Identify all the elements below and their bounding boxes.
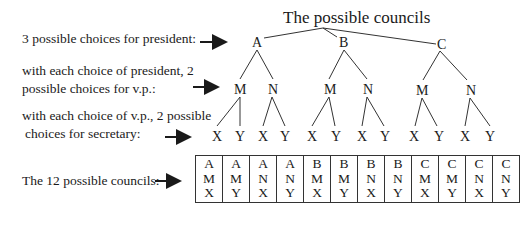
node-secretary: Y — [380, 129, 390, 144]
council-cell: CMY — [439, 156, 466, 203]
node-secretary: X — [212, 129, 222, 144]
council-cell: ANX — [250, 156, 277, 203]
node-vp: N — [268, 82, 278, 97]
node-president-a: A — [252, 35, 263, 50]
node-secretary: Y — [235, 129, 245, 144]
node-secretary: Y — [280, 129, 290, 144]
council-cell: CMX — [411, 156, 438, 203]
node-secretary: Y — [485, 129, 495, 144]
node-secretary: Y — [434, 129, 444, 144]
node-secretary: X — [409, 129, 419, 144]
node-vp: M — [416, 83, 429, 98]
council-cell: BMY — [331, 156, 358, 203]
node-vp: M — [234, 82, 247, 97]
council-cell: BMX — [303, 156, 330, 203]
councils-table: AMX AMY ANX ANY BMX BMY BNX BNY CMX CMY … — [195, 155, 520, 203]
node-secretary: X — [460, 129, 470, 144]
node-secretary: Y — [331, 129, 341, 144]
table-row: AMX AMY ANX ANY BMX BMY BNX BNY CMX CMY … — [196, 156, 520, 203]
council-cell: BNY — [385, 156, 412, 203]
council-cell: AMY — [223, 156, 250, 203]
council-cell: CNY — [492, 156, 519, 203]
node-vp: N — [466, 83, 476, 98]
node-vp: N — [363, 82, 373, 97]
node-secretary: X — [307, 129, 317, 144]
node-vp: M — [324, 82, 337, 97]
node-secretary: X — [258, 129, 268, 144]
node-secretary: X — [357, 129, 367, 144]
council-cell: ANY — [277, 156, 304, 203]
node-president-c: C — [437, 37, 446, 52]
council-cell: AMX — [196, 156, 223, 203]
node-president-b: B — [339, 35, 348, 50]
council-cell: BNX — [358, 156, 385, 203]
council-cell: CNX — [466, 156, 493, 203]
